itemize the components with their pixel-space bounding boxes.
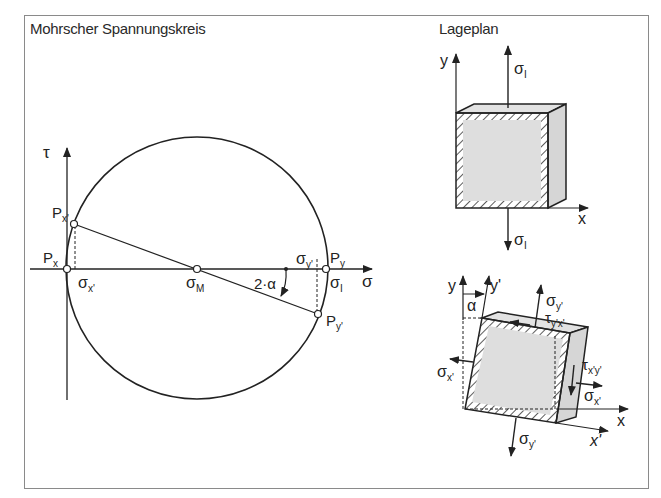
sigma-i-top-label: σI xyxy=(514,60,527,80)
sigma-yp-bottom-label: σy' xyxy=(519,430,536,450)
label-px: Px xyxy=(43,249,58,269)
label-sigma-m: σM xyxy=(186,274,204,294)
sigma-i-bottom-label: σI xyxy=(514,231,527,251)
point-sigma-m xyxy=(194,266,201,273)
x-axis-label: x xyxy=(578,210,586,227)
label-sigma-xp: σx' xyxy=(78,274,95,294)
sigma-xp-left-label: σx' xyxy=(437,363,454,383)
diagram-canvas: τ σ Px' Px σx' σM 2·α σy' Py σI Py' xyxy=(0,0,661,498)
sigma-xp-left-arrow xyxy=(450,359,473,362)
principal-stress-element: y x σI σI xyxy=(440,46,588,251)
cube-side-face xyxy=(548,104,566,208)
point-px xyxy=(64,266,71,273)
tau-xpyp-label: τx'y' xyxy=(582,356,602,376)
yp-axis-label: y' xyxy=(490,277,501,294)
cube-front-face xyxy=(463,120,541,201)
sigma-yp-bottom-arrow xyxy=(511,418,516,456)
sigma-axis-label: σ xyxy=(362,272,373,291)
xp-axis-label: x' xyxy=(589,432,602,449)
label-sigma-i: σI xyxy=(330,274,343,294)
rotated-stress-element: y y' α x x' σy' τy'x' σx' τx'y' xyxy=(437,276,628,456)
yp-axis xyxy=(482,276,489,318)
angle-start-dot xyxy=(284,267,288,271)
mohr-circle-diagram: τ σ Px' Px σx' σM 2·α σy' Py σI Py' xyxy=(30,137,373,400)
label-py: Py xyxy=(330,249,345,269)
tau-axis-label: τ xyxy=(43,143,50,162)
label-pyp: Py' xyxy=(326,312,343,332)
point-pyp xyxy=(315,311,322,318)
xp-axis xyxy=(556,423,608,431)
point-pxp xyxy=(71,221,78,228)
y-axis-2-label: y xyxy=(448,277,456,294)
alpha-label: α xyxy=(467,297,476,314)
y-axis-label: y xyxy=(440,52,448,69)
x-axis-2-label: x xyxy=(617,412,625,429)
point-py xyxy=(323,266,330,273)
sigma-xp-right-label: σx' xyxy=(584,387,601,407)
label-sigma-yp: σy' xyxy=(296,250,313,270)
angle-arc xyxy=(281,269,286,296)
label-2alpha: 2·α xyxy=(254,275,276,292)
